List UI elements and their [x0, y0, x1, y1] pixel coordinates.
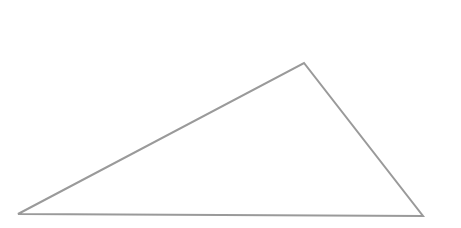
- triangle-diagram: [0, 0, 461, 228]
- triangle-shape: [18, 63, 423, 216]
- diagram-canvas: [0, 0, 461, 228]
